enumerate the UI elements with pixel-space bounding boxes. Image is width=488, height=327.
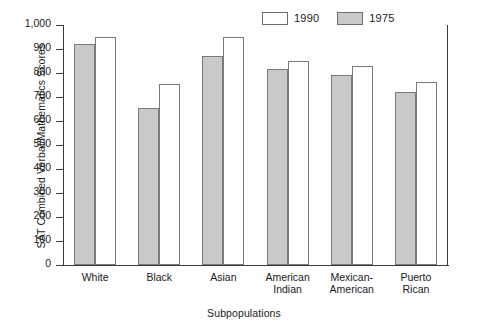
bar-puerto-rican-1990 bbox=[416, 82, 437, 265]
bar-asian-1975 bbox=[202, 56, 223, 265]
x-tick-label-black: Black bbox=[127, 271, 191, 283]
bar-chart-figure: 1990 1975 SAT Combined Verbal/Mathematic… bbox=[0, 0, 488, 327]
y-tick-mark bbox=[56, 265, 63, 266]
x-tick-label-asian: Asian bbox=[191, 271, 255, 283]
y-tick-label: 900 bbox=[33, 42, 51, 53]
y-tick-mark bbox=[56, 121, 63, 122]
legend-label-1975: 1975 bbox=[369, 13, 394, 24]
bar-american-indian-1975 bbox=[267, 69, 288, 265]
y-tick-mark bbox=[56, 73, 63, 74]
bar-asian-1990 bbox=[223, 37, 244, 265]
y-tick-label: 100 bbox=[33, 234, 51, 245]
y-tick-label: 300 bbox=[33, 186, 51, 197]
y-tick-mark bbox=[56, 25, 63, 26]
y-tick-label: 400 bbox=[33, 162, 51, 173]
y-tick-mark bbox=[56, 193, 63, 194]
y-tick-mark bbox=[56, 49, 63, 50]
legend-entry-1990: 1990 bbox=[262, 12, 319, 25]
legend-entry-1975: 1975 bbox=[337, 12, 394, 25]
bar-black-1990 bbox=[159, 84, 180, 265]
y-tick-label: 200 bbox=[33, 210, 51, 221]
bar-black-1975 bbox=[138, 108, 159, 265]
bar-puerto-rican-1975 bbox=[395, 92, 416, 265]
x-tick-label-mexican--american: Mexican- American bbox=[320, 271, 384, 295]
x-tick-label-puerto-rican: Puerto Rican bbox=[384, 271, 448, 295]
bar-white-1990 bbox=[95, 37, 116, 265]
y-tick-label: 700 bbox=[33, 90, 51, 101]
y-tick-label: 600 bbox=[33, 114, 51, 125]
bar-white-1975 bbox=[74, 44, 95, 265]
y-tick-mark bbox=[56, 241, 63, 242]
x-tick-label-white: White bbox=[63, 271, 127, 283]
y-tick-label: 800 bbox=[33, 66, 51, 77]
x-axis-title: Subpopulations bbox=[0, 307, 488, 319]
legend-swatch-1975 bbox=[337, 12, 363, 25]
x-axis-line bbox=[63, 265, 449, 266]
bar-mexican--american-1975 bbox=[331, 75, 352, 265]
plot-area bbox=[63, 25, 448, 265]
y-tick-label: 500 bbox=[33, 138, 51, 149]
y-tick-mark bbox=[56, 169, 63, 170]
bar-american-indian-1990 bbox=[288, 61, 309, 265]
legend-swatch-1990 bbox=[262, 12, 288, 25]
legend-label-1990: 1990 bbox=[294, 13, 319, 24]
y-tick-label: 0 bbox=[45, 258, 51, 269]
y-tick-mark bbox=[56, 145, 63, 146]
bar-mexican--american-1990 bbox=[352, 66, 373, 265]
x-tick-label-american-indian: American Indian bbox=[256, 271, 320, 295]
y-tick-label: 1,000 bbox=[25, 18, 51, 29]
y-tick-mark bbox=[56, 97, 63, 98]
y-tick-mark bbox=[56, 217, 63, 218]
